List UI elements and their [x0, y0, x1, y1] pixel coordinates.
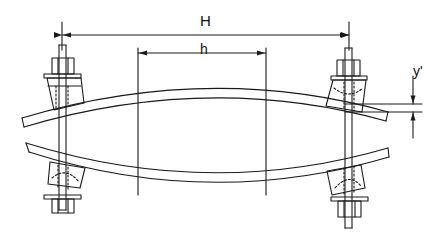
label-H: H	[200, 13, 211, 28]
label-y-prime: y'	[413, 64, 423, 78]
left-upper-clamp	[44, 58, 84, 110]
leaf-spring-diagram: H h y'	[0, 0, 440, 241]
label-h: h	[200, 42, 208, 56]
dimension-y-prime-arrows	[411, 96, 416, 121]
diagram-drawing	[0, 0, 440, 241]
left-lower-clamp	[44, 162, 85, 213]
right-lower-clamp	[327, 165, 368, 217]
lower-leaf-spring	[26, 143, 389, 182]
dimension-y-prime	[345, 76, 422, 138]
